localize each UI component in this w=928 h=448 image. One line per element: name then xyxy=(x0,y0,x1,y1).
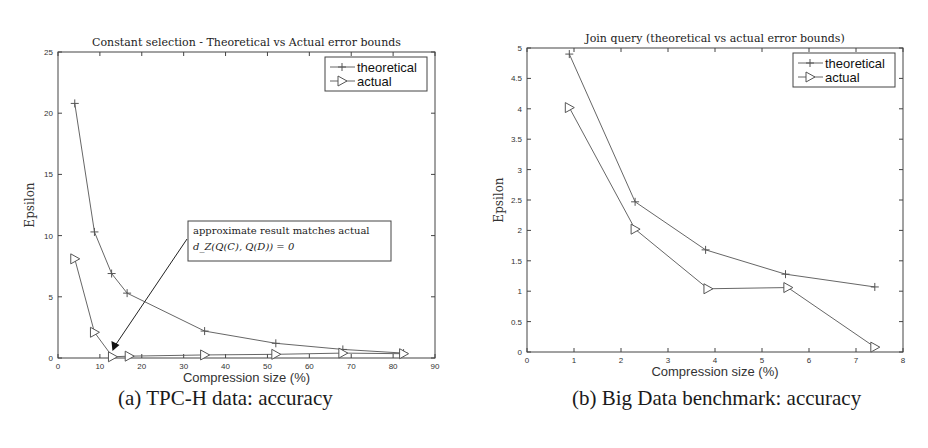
legend-label-theoretical: theoretical xyxy=(825,56,885,71)
chart-tpch-accuracy: Constant selection - Theoretical vs Actu… xyxy=(23,36,440,385)
series-actual xyxy=(71,254,409,362)
chart-title: Constant selection - Theoretical vs Actu… xyxy=(92,36,401,49)
figure-canvas: Constant selection - Theoretical vs Actu… xyxy=(0,0,928,448)
svg-text:approximate result matches act: approximate result matches actual xyxy=(193,225,370,236)
x-tick-label: 70 xyxy=(347,362,356,371)
y-tick-label: 4.5 xyxy=(511,74,523,83)
y-tick-label: 5 xyxy=(518,44,523,53)
x-tick-label: 0 xyxy=(56,362,61,371)
series-actual xyxy=(565,103,880,353)
y-tick-label: 0 xyxy=(518,348,523,357)
y-tick-label: 15 xyxy=(44,170,53,179)
legend-label-actual: actual xyxy=(825,70,860,85)
plot-frame xyxy=(527,48,903,352)
caption-right: (b) Big Data benchmark: accuracy xyxy=(572,386,861,411)
legend-label-actual: actual xyxy=(357,74,392,89)
legend-label-theoretical: theoretical xyxy=(357,60,417,75)
y-tick-label: 2 xyxy=(518,226,523,235)
legend: theoreticalactual xyxy=(793,53,895,87)
y-tick-label: 2.5 xyxy=(511,196,523,205)
x-axis-label: Compression size (%) xyxy=(651,364,778,379)
x-tick-label: 80 xyxy=(389,362,398,371)
y-tick-label: 1.5 xyxy=(511,257,523,266)
x-tick-label: 90 xyxy=(431,362,440,371)
y-axis-label: Epsilon xyxy=(492,177,506,223)
y-tick-label: 3.5 xyxy=(511,135,523,144)
legend: theoreticalactual xyxy=(325,57,427,91)
x-tick-label: 6 xyxy=(807,356,812,365)
x-tick-label: 1 xyxy=(572,356,577,365)
x-tick-label: 0 xyxy=(525,356,530,365)
annotation: approximate result matches actuald_Z(Q(C… xyxy=(111,221,391,351)
x-tick-label: 10 xyxy=(95,362,104,371)
x-tick-label: 8 xyxy=(901,356,906,365)
y-tick-label: 25 xyxy=(44,48,53,57)
y-tick-label: 3 xyxy=(518,166,523,175)
plot-frame xyxy=(58,52,435,358)
svg-text:d_Z(Q(C), Q(D)) = 0: d_Z(Q(C), Q(D)) = 0 xyxy=(193,241,295,253)
x-tick-label: 2 xyxy=(619,356,624,365)
y-tick-label: 0.5 xyxy=(511,318,523,327)
y-tick-label: 20 xyxy=(44,109,53,118)
caption-left: (a) TPC-H data: accuracy xyxy=(118,386,333,411)
y-tick-label: 0 xyxy=(49,354,54,363)
chart-bigdata-accuracy: Join query (theoretical vs actual error … xyxy=(492,32,906,379)
chart-title: Join query (theoretical vs actual error … xyxy=(584,32,844,45)
x-axis-label: Compression size (%) xyxy=(183,370,310,385)
y-tick-label: 5 xyxy=(49,293,54,302)
x-tick-label: 7 xyxy=(854,356,859,365)
y-tick-label: 10 xyxy=(44,232,53,241)
y-tick-label: 4 xyxy=(518,105,523,114)
y-axis-label: Epsilon xyxy=(23,182,37,228)
y-tick-label: 1 xyxy=(518,287,523,296)
x-tick-label: 20 xyxy=(137,362,146,371)
